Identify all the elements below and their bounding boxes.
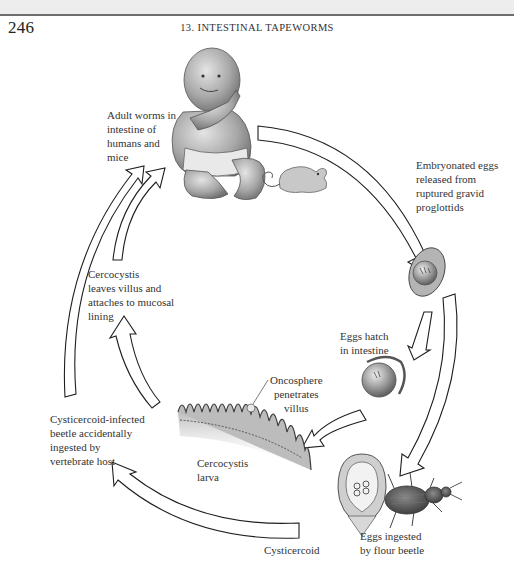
label-eggs-hatch: Eggs hatch in intestine	[340, 329, 389, 357]
label-cysticercoid: Cysticercoid	[264, 543, 320, 557]
label-beetle-ingested: Cysticercoid-infected beetle accidentall…	[50, 412, 145, 468]
arrow-hatch-to-villus	[302, 410, 366, 448]
arrow-mucosa-to-adult-inner	[113, 168, 165, 260]
label-cercocystis-larva: Cercocystis larva	[197, 456, 248, 484]
label-oncosphere: Oncosphere penetrates villus	[270, 373, 323, 415]
embryonated-egg-illustration	[402, 243, 451, 302]
label-cercocystis-leaves: Cercocystis leaves villus and attaches t…	[88, 267, 174, 323]
cysticercoid-illustration	[338, 454, 386, 536]
arrow-adult-to-eggs	[258, 126, 434, 276]
flour-beetle-illustration	[385, 473, 462, 528]
life-cycle-diagram	[0, 0, 514, 569]
infant-illustration	[172, 48, 265, 200]
label-embryonated-eggs: Embryonated eggs released from ruptured …	[416, 158, 498, 214]
arrow-villus-to-mucosa	[110, 316, 160, 408]
label-eggs-ingested: Eggs ingested by flour beetle	[360, 529, 424, 557]
arrow-egg-to-hatch	[408, 312, 432, 360]
mouse-illustration	[263, 167, 327, 193]
hatching-egg-illustration	[362, 357, 405, 397]
label-adult-worms: Adult worms in intestine of humans and m…	[107, 108, 176, 164]
